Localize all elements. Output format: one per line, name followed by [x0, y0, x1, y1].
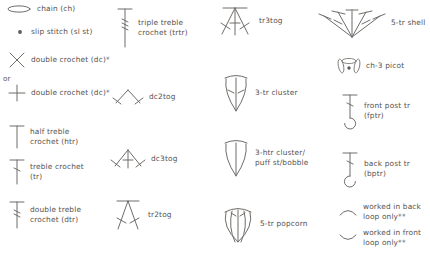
legend-label: tr2tog	[143, 210, 172, 220]
five-tr-shell-symbol	[318, 6, 386, 40]
legend-entry-tr2tog: tr2tog	[113, 198, 172, 232]
legend-entry-double-treble: double treble crochet (dtr)	[9, 200, 81, 230]
three-tr-cluster-symbol	[222, 72, 250, 114]
double-treble-symbol	[9, 200, 25, 230]
back-post-tr-symbol	[341, 150, 359, 188]
dc3tog-symbol	[110, 148, 146, 170]
legend-entry-slip-stitch: slip stitch (sl st)	[14, 26, 92, 38]
dc2tog-symbol	[112, 88, 144, 106]
legend-label: tr3tog	[254, 16, 283, 26]
legend-label: chain (ch)	[32, 4, 75, 14]
triple-treble-symbol	[117, 7, 133, 49]
legend-entry-back-post-tr: back post tr (bptr)	[341, 150, 410, 188]
legend-label: double crochet (dc)*	[26, 55, 110, 65]
legend-label: treble crochet (tr)	[25, 162, 84, 182]
back-loop-only-symbol	[338, 206, 358, 218]
crochet-symbol-legend: chain (ch) slip stitch (sl st) double cr…	[0, 0, 430, 256]
legend-entry-dc2tog: dc2tog	[112, 88, 175, 106]
legend-entry-five-tr-popcorn: 5-tr popcorn	[221, 203, 308, 245]
three-htr-cluster-symbol	[222, 137, 250, 179]
legend-label: half treble crochet (htr)	[25, 127, 78, 147]
tr3tog-symbol	[216, 4, 254, 38]
half-treble-symbol	[9, 124, 25, 150]
legend-entry-treble: treble crochet (tr)	[9, 158, 84, 186]
legend-label: 5-tr shell	[386, 18, 425, 28]
legend-label: back post tr (bptr)	[359, 159, 410, 179]
slip-stitch-symbol	[14, 26, 26, 38]
legend-entry-front-post-tr: front post tr (fptr)	[341, 92, 410, 130]
legend-label: dc3tog	[146, 154, 177, 164]
legend-entry-three-htr-cluster: 3-htr cluster/ puff st/bobble	[222, 137, 308, 179]
legend-label: worked in back loop only**	[358, 202, 421, 222]
legend-entry-five-tr-shell: 5-tr shell	[318, 6, 425, 40]
legend-label: double crochet (dc)*	[26, 88, 110, 98]
legend-label: 3-tr cluster	[250, 88, 298, 98]
treble-symbol	[9, 158, 25, 186]
chain-symbol	[6, 3, 32, 15]
front-post-tr-symbol	[341, 92, 359, 130]
five-tr-popcorn-symbol	[221, 203, 255, 245]
legend-label: front post tr (fptr)	[359, 101, 410, 121]
legend-label: 5-tr popcorn	[255, 219, 308, 229]
legend-entry-back-loop-only: worked in back loop only**	[338, 202, 421, 222]
legend-label: 3-htr cluster/ puff st/bobble	[250, 148, 308, 168]
legend-label: double treble crochet (dtr)	[25, 205, 81, 225]
legend-entry-half-treble: half treble crochet (htr)	[9, 124, 78, 150]
legend-label: slip stitch (sl st)	[26, 27, 92, 37]
double-crochet-plus-symbol	[8, 84, 26, 102]
legend-label: dc2tog	[144, 92, 175, 102]
legend-entry-chain: chain (ch)	[6, 3, 75, 15]
legend-label: triple treble crochet (trtr)	[133, 18, 188, 38]
tr2tog-symbol	[113, 198, 143, 232]
legend-entry-three-tr-cluster: 3-tr cluster	[222, 72, 298, 114]
legend-label: ch-3 picot	[361, 61, 404, 71]
legend-entry-tr3tog: tr3tog	[216, 4, 283, 38]
legend-entry-front-loop-only: worked in front loop only**	[338, 228, 421, 248]
double-crochet-x-symbol	[8, 51, 26, 69]
legend-entry-dc3tog: dc3tog	[110, 148, 177, 170]
legend-entry-triple-treble: triple treble crochet (trtr)	[117, 7, 188, 49]
front-loop-only-symbol	[338, 232, 358, 244]
ch3-picot-symbol	[337, 57, 361, 75]
legend-entry-double-crochet-x: double crochet (dc)*	[8, 51, 110, 69]
or-note: or	[3, 74, 10, 83]
legend-label: worked in front loop only**	[358, 228, 421, 248]
legend-entry-double-crochet-plus: double crochet (dc)*	[8, 84, 110, 102]
legend-entry-ch3-picot: ch-3 picot	[337, 57, 404, 75]
